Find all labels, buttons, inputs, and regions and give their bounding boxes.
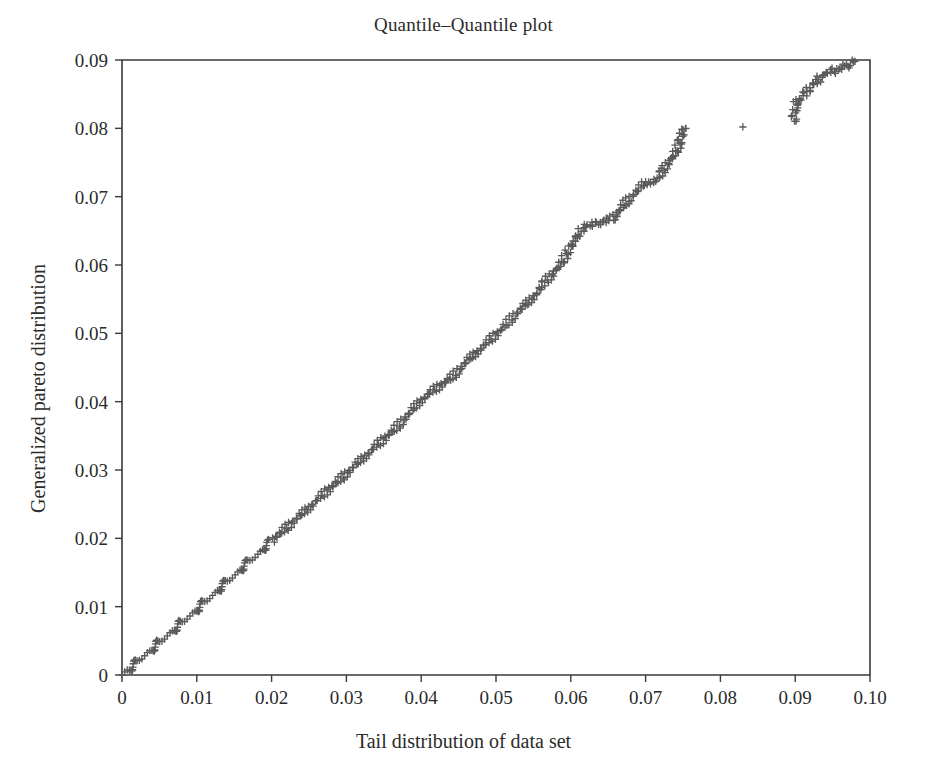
y-tick-label: 0.06 [75,255,108,276]
x-tick-label: 0.02 [255,687,288,708]
x-tick-label: 0.06 [554,687,587,708]
x-tick-label: 0 [117,687,127,708]
y-tick-label: 0.05 [75,323,108,344]
y-tick-label: 0.01 [75,597,108,618]
x-tick-label: 0.01 [180,687,213,708]
x-tick-label: 0.08 [704,687,737,708]
y-tick-label: 0.09 [75,50,108,71]
scatter-markers [118,56,858,678]
x-axis-label: Tail distribution of data set [0,730,927,753]
ticks-group [115,60,870,682]
x-tick-label: 0.09 [779,687,812,708]
qq-plot-figure: Quantile–Quantile plot 00.010.020.030.04… [0,0,927,777]
x-tick-label: 0.10 [853,687,886,708]
y-tick-label: 0.02 [75,528,108,549]
axes-group [122,60,870,675]
y-tick-label: 0 [99,665,109,686]
data-points-group [118,56,858,678]
plot-area: 00.010.020.030.040.050.060.070.080.090.1… [0,0,927,777]
y-tick-label: 0.07 [75,187,108,208]
x-tick-label: 0.03 [330,687,363,708]
x-tick-label: 0.07 [629,687,662,708]
y-tick-label: 0.04 [75,392,109,413]
x-tick-label: 0.05 [479,687,512,708]
y-axis-label: Generalized pareto distribution [18,0,58,777]
y-tick-label: 0.08 [75,118,108,139]
y-tick-label: 0.03 [75,460,108,481]
x-tick-label: 0.04 [405,687,439,708]
